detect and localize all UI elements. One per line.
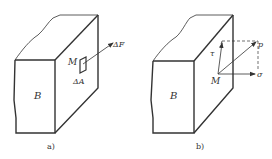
body-block-a [14,15,98,133]
shear-stress-arrow [218,43,222,74]
body-label-b: B [169,90,177,101]
point-label-a: M [67,57,78,67]
area-label-a: ΔA [72,77,85,86]
stress-diagram: B M ΔA ΔF a) B τ p [0,0,272,159]
area-element-a [80,57,86,73]
figure-a: B M ΔA ΔF a) [14,15,125,151]
point-label-b: M [210,76,221,86]
shear-stress-label: τ [210,49,215,58]
force-label: ΔF [112,40,125,49]
caption-b: b) [196,142,204,151]
caption-a: a) [47,142,55,151]
total-stress-arrow [218,42,256,74]
total-stress-label: p [258,40,263,49]
normal-stress-label: σ [257,70,263,79]
figure-b: B τ p σ M b) [151,15,263,151]
body-label-a: B [33,90,41,101]
